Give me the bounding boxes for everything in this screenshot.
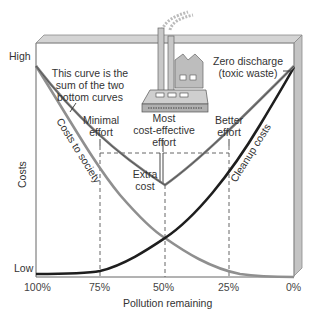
sum-note-line2: sum of the two	[56, 79, 124, 91]
x-tick-25: 25%	[218, 281, 239, 293]
sum-note-line1: This curve is the	[52, 67, 129, 79]
minimal-effort-line1: Minimal	[83, 114, 119, 126]
x-tick-50: 50%	[153, 281, 174, 293]
x-axis-title: Pollution remaining	[123, 297, 212, 309]
annotations: This curve is the sum of the two bottom …	[52, 55, 283, 192]
most-effective-line1: Most	[153, 112, 176, 124]
extra-cost-line2: cost	[135, 180, 154, 192]
y-low-label: Low	[14, 262, 34, 274]
x-tick-100: 100%	[24, 281, 51, 293]
minimal-effort-line2: effort	[89, 126, 113, 138]
zero-discharge-line1: Zero discharge	[213, 55, 283, 67]
x-tick-75: 75%	[89, 281, 110, 293]
y-axis-title: Costs	[16, 161, 28, 188]
better-effort-line1: Better	[215, 114, 244, 126]
pollution-cost-diagram: High Low Costs 100% 75% 50% 25% 0% Pollu…	[0, 0, 312, 318]
x-tick-0: 0%	[286, 281, 301, 293]
zero-discharge-line2: (toxic waste)	[219, 67, 278, 79]
y-high-label: High	[9, 50, 31, 62]
sum-note-line3: bottom curves	[57, 91, 123, 103]
guide-lines	[100, 146, 229, 277]
better-effort-line2: effort	[217, 126, 241, 138]
extra-cost-line1: Extra	[133, 168, 158, 180]
most-effective-line3: effort	[152, 136, 176, 148]
factory-icon	[142, 12, 208, 112]
most-effective-line2: cost-effective	[133, 124, 195, 136]
